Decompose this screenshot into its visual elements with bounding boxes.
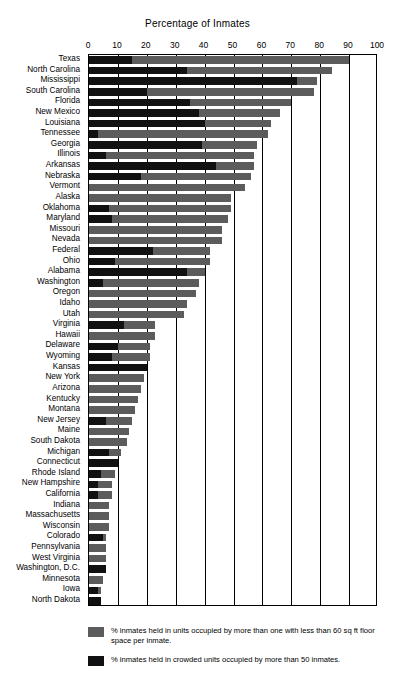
category-label: Arkansas xyxy=(0,160,84,171)
x-tick-label: 30 xyxy=(170,40,179,50)
category-label: Iowa xyxy=(0,584,84,595)
bar-segment-crowded-units xyxy=(89,534,103,542)
category-labels: TexasNorth CarolinaMississippiSouth Caro… xyxy=(0,54,84,606)
x-tick-label: 10 xyxy=(112,40,121,50)
category-label: Rhode Island xyxy=(0,468,84,479)
legend-swatch-light xyxy=(88,627,104,637)
category-label: New Jersey xyxy=(0,415,84,426)
x-tick-label: 20 xyxy=(141,40,150,50)
bar-segment-under-60-sqft xyxy=(89,194,231,202)
bar-row xyxy=(89,310,376,321)
category-label: South Carolina xyxy=(0,86,84,97)
x-tick-label: 40 xyxy=(199,40,208,50)
x-tick-label: 70 xyxy=(286,40,295,50)
bar-row xyxy=(89,257,376,268)
bar-segment-crowded-units xyxy=(89,141,202,149)
plot-area xyxy=(88,54,377,606)
bar-segment-under-60-sqft xyxy=(89,555,106,563)
bar-row xyxy=(89,437,376,448)
legend-label: % inmates held in units occupied by more… xyxy=(111,626,381,646)
category-label: New Mexico xyxy=(0,107,84,118)
bar-row xyxy=(89,469,376,480)
category-label: Indiana xyxy=(0,500,84,511)
category-label: West Virginia xyxy=(0,553,84,564)
bar-row xyxy=(89,543,376,554)
bar-row xyxy=(89,172,376,183)
category-label: Idaho xyxy=(0,298,84,309)
bar-segment-under-60-sqft xyxy=(89,290,196,298)
bar-segment-crowded-units xyxy=(89,268,187,276)
bar-row xyxy=(89,511,376,522)
category-label: Nebraska xyxy=(0,171,84,182)
bar-row xyxy=(89,214,376,225)
bar-segment-under-60-sqft xyxy=(89,438,127,446)
bar-segment-under-60-sqft xyxy=(89,237,222,245)
bar-row xyxy=(89,267,376,278)
bar-row xyxy=(89,596,376,607)
bar-row xyxy=(89,384,376,395)
bar-segment-under-60-sqft xyxy=(89,279,199,287)
category-label: Wisconsin xyxy=(0,521,84,532)
bar-row xyxy=(89,119,376,130)
category-label: Florida xyxy=(0,96,84,107)
bar-segment-crowded-units xyxy=(89,364,147,372)
bar-row xyxy=(89,129,376,140)
bar-segment-under-60-sqft xyxy=(89,130,268,138)
bar-segment-crowded-units xyxy=(89,152,106,160)
bar-row xyxy=(89,458,376,469)
bar-row xyxy=(89,278,376,289)
bar-row xyxy=(89,564,376,575)
bar-segment-crowded-units xyxy=(89,470,101,478)
category-label: North Carolina xyxy=(0,65,84,76)
bar-row xyxy=(89,108,376,119)
bar-rows xyxy=(89,55,376,605)
category-label: Arizona xyxy=(0,383,84,394)
category-label: Illinois xyxy=(0,149,84,160)
category-label: Massachusetts xyxy=(0,510,84,521)
bar-segment-crowded-units xyxy=(89,162,216,170)
category-label: Michigan xyxy=(0,447,84,458)
bar-row xyxy=(89,490,376,501)
bar-segment-crowded-units xyxy=(89,258,115,266)
bar-segment-crowded-units xyxy=(89,449,109,457)
category-label: Delaware xyxy=(0,340,84,351)
category-label: Connecticut xyxy=(0,457,84,468)
gridline xyxy=(291,55,292,605)
category-label: Kentucky xyxy=(0,394,84,405)
bar-row xyxy=(89,522,376,533)
legend-item: % inmates held in crowded units occupied… xyxy=(88,655,388,666)
x-tick-label: 60 xyxy=(257,40,266,50)
category-label: Utah xyxy=(0,309,84,320)
bar-segment-under-60-sqft xyxy=(89,205,231,213)
category-label: North Dakota xyxy=(0,595,84,606)
bar-segment-under-60-sqft xyxy=(89,428,129,436)
bar-segment-crowded-units xyxy=(89,565,106,573)
bar-segment-under-60-sqft xyxy=(89,396,138,404)
category-label: Maryland xyxy=(0,213,84,224)
bar-segment-under-60-sqft xyxy=(89,311,184,319)
bar-segment-crowded-units xyxy=(89,247,153,255)
bar-row xyxy=(89,363,376,374)
bar-segment-crowded-units xyxy=(89,173,141,181)
bar-segment-under-60-sqft xyxy=(89,544,106,552)
bar-segment-under-60-sqft xyxy=(89,226,222,234)
bar-segment-under-60-sqft xyxy=(89,523,109,531)
bar-row xyxy=(89,405,376,416)
bar-row xyxy=(89,161,376,172)
bar-segment-under-60-sqft xyxy=(89,374,144,382)
bar-row xyxy=(89,55,376,66)
chart-legend: % inmates held in units occupied by more… xyxy=(88,626,388,675)
category-label: Wyoming xyxy=(0,351,84,362)
bar-segment-under-60-sqft xyxy=(89,300,187,308)
category-label: Federal xyxy=(0,245,84,256)
bar-segment-crowded-units xyxy=(89,120,205,128)
category-label: Georgia xyxy=(0,139,84,150)
bar-row xyxy=(89,479,376,490)
bar-row xyxy=(89,501,376,512)
bar-row xyxy=(89,373,376,384)
category-label: Washington, D.C. xyxy=(0,563,84,574)
bar-row xyxy=(89,182,376,193)
x-axis-tick-labels: 0102030405060708090100 xyxy=(88,40,377,54)
bar-row xyxy=(89,76,376,87)
bar-segment-crowded-units xyxy=(89,459,118,467)
